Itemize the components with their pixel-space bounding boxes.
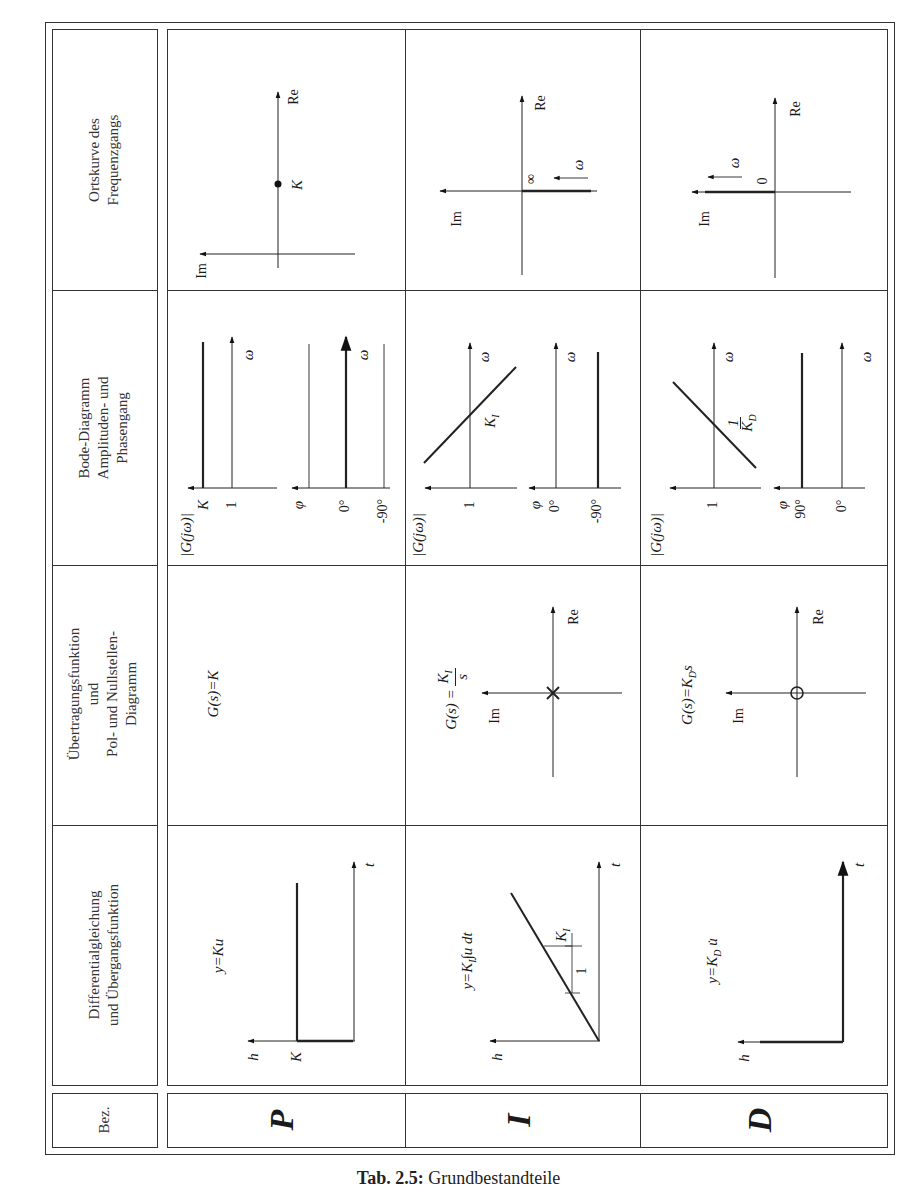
d-diff-eq: y=KD u̇ bbox=[704, 921, 726, 1001]
d-bode-phase bbox=[774, 343, 865, 488]
d-transfer-fn: G(s)=KDs bbox=[679, 645, 701, 745]
i-step-1: 1 bbox=[574, 962, 592, 980]
d-pz-im: Im bbox=[731, 701, 749, 731]
i-bode-omega2: ω bbox=[562, 348, 580, 366]
d-bode-crossing: 1KD bbox=[727, 403, 757, 443]
d-bode-omega1: ω bbox=[720, 348, 738, 366]
header-bez: Bez. bbox=[95, 1090, 115, 1150]
i-bode-mag-label: |G(jω)| bbox=[410, 505, 428, 565]
d-pz-plot bbox=[726, 607, 866, 777]
p-nyq-k: K bbox=[289, 175, 307, 195]
i-nyq-omega: ω bbox=[570, 156, 588, 174]
d-step-h: h bbox=[736, 1050, 754, 1066]
d-pz-re: Re bbox=[811, 602, 829, 632]
header-nyquist: Ortskurve desFrequenzgangs bbox=[85, 60, 125, 260]
i-bode-1: 1 bbox=[462, 496, 480, 514]
d-bode-phi: φ bbox=[774, 496, 792, 514]
d-bode-mag-label: |G(jω)| bbox=[648, 505, 666, 565]
p-bode-1: 1 bbox=[224, 496, 242, 514]
p-step-k: K bbox=[288, 1048, 306, 1066]
i-step-ki: KI bbox=[553, 921, 571, 949]
p-bode-omega2: ω bbox=[355, 346, 373, 364]
p-bode-phi: φ bbox=[290, 496, 308, 514]
d-bode-1: 1 bbox=[705, 496, 723, 514]
i-step-t: t bbox=[607, 857, 625, 873]
d-bode-90deg: 90° bbox=[793, 495, 811, 523]
i-pz-im: Im bbox=[487, 701, 505, 731]
p-transfer-fn: G(s)=K bbox=[205, 654, 225, 734]
i-bode-magnitude bbox=[424, 343, 517, 488]
i-transfer-fn: G(s) = KIs bbox=[437, 649, 467, 749]
i-nyq-im: Im bbox=[449, 204, 467, 234]
i-bode-phi: φ bbox=[527, 496, 545, 514]
p-step-plot bbox=[248, 862, 355, 1041]
d-nyq-im: Im bbox=[697, 204, 715, 234]
p-nyq-im: Im bbox=[194, 256, 212, 286]
p-bode-magnitude bbox=[188, 337, 277, 488]
i-bode-m90: -90° bbox=[589, 494, 607, 528]
i-bode-omega1: ω bbox=[476, 348, 494, 366]
i-step-h: h bbox=[489, 1049, 507, 1065]
p-bode-k: K bbox=[195, 496, 213, 514]
header-differential: Differentialgleichungund Übergangsfunkti… bbox=[85, 835, 125, 1075]
header-bode: Bode-DiagrammAmplituden- undPhasengang bbox=[75, 313, 135, 543]
i-pz-plot bbox=[482, 607, 622, 777]
d-step-plot bbox=[738, 862, 843, 1042]
p-step-t: t bbox=[361, 857, 379, 873]
p-bode-m90: -90° bbox=[375, 494, 393, 528]
row-label-p: P bbox=[263, 1095, 307, 1145]
d-bode-0deg: 0° bbox=[834, 495, 852, 517]
p-nyq-re: Re bbox=[286, 82, 304, 112]
i-nyq-inf: ∞ bbox=[523, 170, 541, 188]
p-bode-mag-label: |G(jω)| bbox=[178, 505, 196, 565]
header-transfer: ÜbertragungsfunktionundPol- und Nullstel… bbox=[65, 574, 145, 814]
i-nyquist-plot bbox=[440, 96, 597, 275]
table-caption: Tab. 2.5: Grundbestandteile bbox=[0, 1168, 917, 1189]
i-pz-re: Re bbox=[566, 602, 584, 632]
i-diff-eq: y=KI∫u dt bbox=[459, 911, 481, 1011]
i-nyq-re: Re bbox=[533, 88, 551, 118]
i-bode-ki: KI bbox=[482, 407, 500, 435]
i-step-plot bbox=[490, 862, 600, 1041]
i-bode-0deg: 0° bbox=[547, 495, 565, 517]
d-nyq-omega: ω bbox=[726, 154, 744, 172]
row-label-d: D bbox=[741, 1095, 785, 1145]
d-nyq-re: Re bbox=[788, 94, 806, 124]
d-nyq-zero: 0 bbox=[755, 173, 773, 189]
p-nyquist-plot bbox=[200, 92, 355, 268]
p-bode-phase bbox=[292, 337, 390, 488]
p-diff-eq: y=Ku bbox=[210, 926, 230, 986]
p-bode-0deg: 0° bbox=[337, 495, 355, 517]
d-bode-omega2: ω bbox=[858, 348, 876, 366]
row-label-i: I bbox=[500, 1095, 544, 1145]
p-bode-omega1: ω bbox=[240, 346, 258, 364]
p-step-h: h bbox=[245, 1049, 263, 1065]
d-step-t: t bbox=[851, 857, 869, 873]
